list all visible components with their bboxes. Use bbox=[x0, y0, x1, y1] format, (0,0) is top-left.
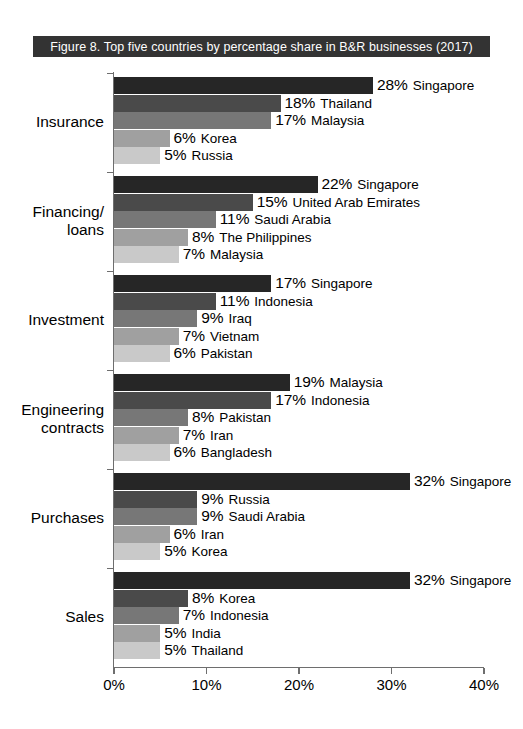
bar[interactable] bbox=[114, 275, 271, 292]
bar[interactable] bbox=[114, 543, 160, 560]
bar-annotation: 5%India bbox=[164, 624, 220, 643]
bar-country-label: Iraq bbox=[228, 311, 251, 326]
bar[interactable] bbox=[114, 293, 216, 310]
x-axis-tick bbox=[113, 668, 114, 674]
bar-country-label: Vietnam bbox=[210, 329, 259, 344]
bar-row[interactable]: 7%Vietnam bbox=[114, 328, 523, 345]
bar-value-label: 6% bbox=[174, 525, 196, 542]
category-label: Engineering contracts bbox=[0, 401, 104, 437]
bar[interactable] bbox=[114, 246, 179, 263]
bar-row[interactable]: 8%Korea bbox=[114, 590, 523, 607]
bar-row[interactable]: 17%Singapore bbox=[114, 275, 523, 292]
x-axis-tick-label: 10% bbox=[191, 676, 221, 693]
bar[interactable] bbox=[114, 607, 179, 624]
bar[interactable] bbox=[114, 328, 179, 345]
bar-country-label: Iran bbox=[210, 428, 233, 443]
bar-country-label: Saudi Arabia bbox=[254, 212, 331, 227]
bar-row[interactable]: 9%Russia bbox=[114, 491, 523, 508]
bar[interactable] bbox=[114, 642, 160, 659]
bar-annotation: 9%Saudi Arabia bbox=[201, 507, 305, 526]
bar-country-label: Bangladesh bbox=[201, 445, 272, 460]
bar-row[interactable]: 18%Thailand bbox=[114, 95, 523, 112]
bar-row[interactable]: 15%United Arab Emirates bbox=[114, 194, 523, 211]
bar-value-label: 7% bbox=[183, 606, 205, 623]
bar-annotation: 6%Iran bbox=[174, 525, 224, 544]
bar[interactable] bbox=[114, 572, 410, 589]
bar[interactable] bbox=[114, 211, 216, 228]
bar-value-label: 22% bbox=[322, 175, 353, 192]
bar-country-label: Indonesia bbox=[254, 294, 313, 309]
bar-row[interactable]: 32%Singapore bbox=[114, 473, 523, 490]
bar[interactable] bbox=[114, 77, 373, 94]
bar-row[interactable]: 6%Pakistan bbox=[114, 345, 523, 362]
bar-row[interactable]: 9%Saudi Arabia bbox=[114, 508, 523, 525]
bar[interactable] bbox=[114, 625, 160, 642]
bar[interactable] bbox=[114, 130, 170, 147]
bar[interactable] bbox=[114, 345, 170, 362]
bar[interactable] bbox=[114, 147, 160, 164]
bar-row[interactable]: 17%Malaysia bbox=[114, 112, 523, 129]
bar-annotation: 6%Bangladesh bbox=[174, 443, 273, 462]
bar-row[interactable]: 19%Malaysia bbox=[114, 374, 523, 391]
bar-value-label: 8% bbox=[192, 228, 214, 245]
bar-row[interactable]: 28%Singapore bbox=[114, 77, 523, 94]
bar-group: Insurance28%Singapore18%Thailand17%Malay… bbox=[0, 73, 523, 172]
bar[interactable] bbox=[114, 526, 170, 543]
bar-row[interactable]: 5%India bbox=[114, 625, 523, 642]
bar-country-label: Korea bbox=[201, 131, 237, 146]
bar[interactable] bbox=[114, 194, 253, 211]
bar-row[interactable]: 17%Indonesia bbox=[114, 392, 523, 409]
bar-country-label: Singapore bbox=[450, 573, 512, 588]
bar[interactable] bbox=[114, 508, 197, 525]
bar-row[interactable]: 8%Pakistan bbox=[114, 409, 523, 426]
figure-container: Figure 8. Top five countries by percenta… bbox=[0, 0, 523, 729]
bar[interactable] bbox=[114, 229, 188, 246]
chart-plot-area: 0%10%20%30%40% Insurance28%Singapore18%T… bbox=[0, 0, 523, 729]
bar-value-label: 6% bbox=[174, 129, 196, 146]
bar-value-label: 11% bbox=[220, 292, 250, 309]
bar[interactable] bbox=[114, 590, 188, 607]
x-axis-tick-label: 20% bbox=[284, 676, 314, 693]
bar-country-label: Iran bbox=[201, 527, 224, 542]
bar[interactable] bbox=[114, 374, 290, 391]
bar-country-label: Thailand bbox=[320, 96, 372, 111]
bar-row[interactable]: 5%Thailand bbox=[114, 642, 523, 659]
bar-row[interactable]: 5%Russia bbox=[114, 147, 523, 164]
bar-row[interactable]: 32%Singapore bbox=[114, 572, 523, 589]
bar-row[interactable]: 22%Singapore bbox=[114, 176, 523, 193]
bar-country-label: Indonesia bbox=[311, 393, 370, 408]
bar-row[interactable]: 6%Korea bbox=[114, 130, 523, 147]
x-axis-tick bbox=[391, 668, 392, 674]
bar[interactable] bbox=[114, 310, 197, 327]
bar-row[interactable]: 7%Indonesia bbox=[114, 607, 523, 624]
bar-row[interactable]: 8%The Philippines bbox=[114, 229, 523, 246]
bar-row[interactable]: 6%Iran bbox=[114, 526, 523, 543]
bar-row[interactable]: 11%Saudi Arabia bbox=[114, 211, 523, 228]
bar[interactable] bbox=[114, 112, 271, 129]
bar-country-label: Singapore bbox=[450, 474, 512, 489]
bar[interactable] bbox=[114, 427, 179, 444]
bar-annotation: 6%Korea bbox=[174, 129, 237, 148]
bar[interactable] bbox=[114, 409, 188, 426]
bar-row[interactable]: 11%Indonesia bbox=[114, 293, 523, 310]
bar-row[interactable]: 7%Iran bbox=[114, 427, 523, 444]
bar-value-label: 5% bbox=[164, 542, 186, 559]
bar[interactable] bbox=[114, 176, 318, 193]
bar-row[interactable]: 7%Malaysia bbox=[114, 246, 523, 263]
bar-value-label: 7% bbox=[183, 245, 205, 262]
bar-row[interactable]: 6%Bangladesh bbox=[114, 444, 523, 461]
x-axis-tick-label: 40% bbox=[469, 676, 499, 693]
bar-row[interactable]: 5%Korea bbox=[114, 543, 523, 560]
bar[interactable] bbox=[114, 392, 271, 409]
bar[interactable] bbox=[114, 95, 281, 112]
bar-annotation: 19%Malaysia bbox=[294, 373, 383, 392]
bar-annotation: 32%Singapore bbox=[414, 571, 511, 590]
bar-row[interactable]: 9%Iraq bbox=[114, 310, 523, 327]
bar[interactable] bbox=[114, 491, 197, 508]
bar-group: Purchases32%Singapore9%Russia9%Saudi Ara… bbox=[0, 469, 523, 568]
bar[interactable] bbox=[114, 473, 410, 490]
bar-value-label: 32% bbox=[414, 472, 445, 489]
bar[interactable] bbox=[114, 444, 170, 461]
category-label: Financing/ loans bbox=[0, 203, 104, 239]
bar-value-label: 8% bbox=[192, 408, 214, 425]
